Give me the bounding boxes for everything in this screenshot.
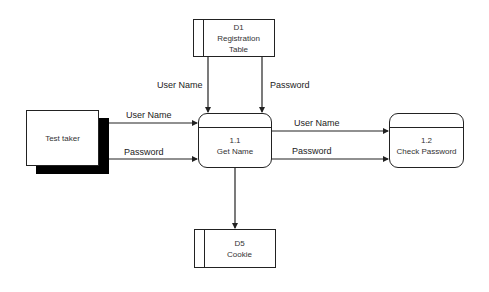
flow-label-testtaker-password: Password (124, 147, 164, 157)
process-label: Get Name (217, 146, 253, 157)
process-header-divider (390, 127, 463, 128)
store-label: Cookie (227, 249, 252, 260)
flow-label-p11-password: Password (292, 146, 332, 156)
flow-label-testtaker-username: User Name (126, 110, 172, 120)
data-store-d1[interactable]: D1 Registration Table (193, 19, 275, 57)
store-code: D5 (234, 238, 244, 249)
process-number: 1.2 (421, 135, 432, 146)
process-label: Check Password (396, 146, 456, 157)
process-header-divider (199, 127, 271, 128)
flow-label-d1-username: User Name (157, 80, 203, 90)
store-label-line2: Table (229, 44, 248, 55)
process-number: 1.1 (229, 135, 240, 146)
data-store-d5[interactable]: D5 Cookie (194, 229, 276, 268)
external-entity-test-taker[interactable]: Test taker (26, 110, 99, 166)
flow-label-d1-password: Password (270, 80, 310, 90)
flow-label-p11-username: User Name (294, 118, 340, 128)
process-1-1[interactable]: 1.1 Get Name (198, 113, 272, 168)
entity-label: Test taker (45, 134, 80, 143)
process-1-2[interactable]: 1.2 Check Password (389, 113, 464, 168)
store-code: D1 (233, 22, 243, 33)
store-label-line1: Registration (217, 33, 260, 44)
